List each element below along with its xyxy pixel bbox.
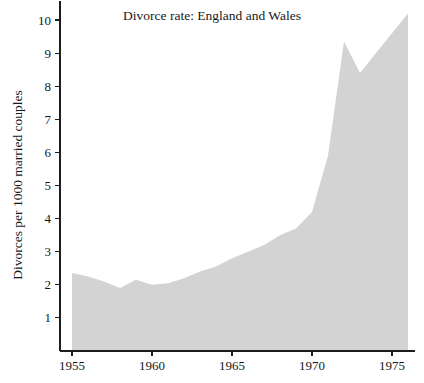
chart-title: Divorce rate: England and Wales [123,8,301,23]
chart-figure: 12345678910 19551960196519701975 Divorce… [0,0,424,383]
y-axis-title: Divorces per 1000 married couples [10,90,25,280]
x-tick-label: 1960 [139,358,165,373]
y-tick-label: 8 [45,79,52,94]
x-tick-label: 1975 [379,358,405,373]
y-tick-label: 10 [38,13,51,28]
x-tick-label: 1970 [299,358,325,373]
y-tick-label: 4 [45,211,52,226]
y-tick-label: 1 [45,310,52,325]
y-tick-label: 6 [45,145,52,160]
y-tick-label: 2 [45,277,52,292]
y-tick-label: 5 [45,178,52,193]
x-tick-label: 1955 [59,358,85,373]
y-tick-label: 9 [45,46,52,61]
x-tick-label: 1965 [219,358,245,373]
divorce-rate-area-chart: 12345678910 19551960196519701975 Divorce… [0,0,424,383]
y-tick-label: 3 [45,244,52,259]
y-tick-label: 7 [45,112,52,127]
